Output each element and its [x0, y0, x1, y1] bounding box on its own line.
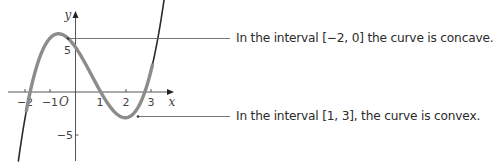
x-tick-label: 2 — [123, 96, 130, 109]
annotation-concave: In the interval [−2, 0] the curve is con… — [236, 31, 493, 45]
y-tick-label: −5 — [57, 129, 73, 142]
pointer-dot-concave — [67, 37, 70, 40]
y-tick-label: 5 — [64, 44, 71, 57]
x-axis-label: x — [169, 95, 176, 109]
cubic-curve — [18, 0, 165, 162]
x-tick-label: 3 — [148, 96, 155, 109]
pointer-dot-convex — [137, 115, 140, 118]
x-tick-label: −2 — [17, 96, 33, 109]
y-axis-label: y — [64, 8, 72, 22]
annotation-convex: In the interval [1, 3], the curve is con… — [236, 109, 480, 123]
graph: −2 −1 1 2 3 5 −5 O x y — [0, 0, 230, 165]
y-axis-arrow-icon — [73, 11, 79, 18]
origin-label: O — [59, 95, 69, 109]
x-tick-label: −1 — [42, 96, 58, 109]
